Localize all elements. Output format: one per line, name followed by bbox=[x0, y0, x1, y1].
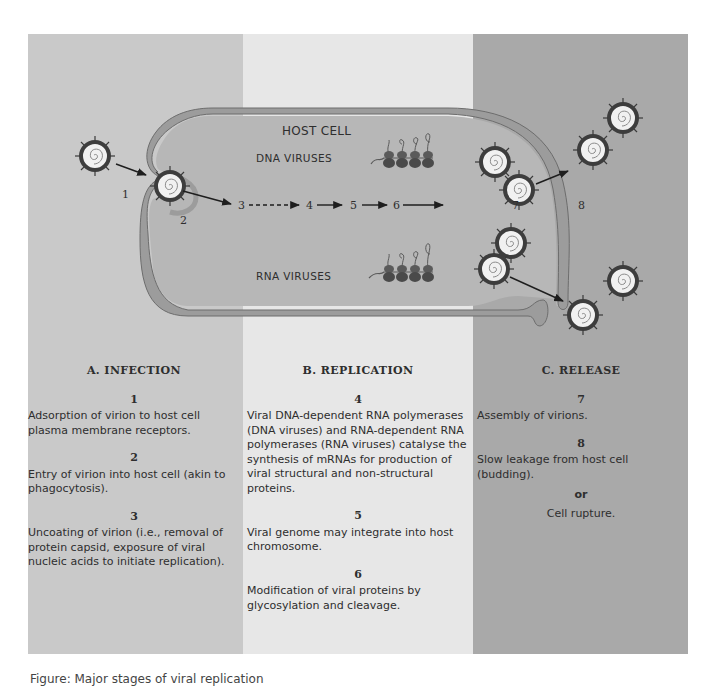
step-number: 2 bbox=[28, 451, 240, 466]
virion-assembled-2 bbox=[499, 170, 539, 210]
virion-entering bbox=[150, 166, 190, 206]
section-title: C. RELEASE bbox=[477, 364, 685, 379]
step-marker-2: 2 bbox=[180, 214, 187, 227]
step-description: Viral DNA-dependent RNA polymerases (DNA… bbox=[247, 409, 469, 496]
step-description: Assembly of virions. bbox=[477, 409, 685, 424]
step-description: Modification of viral proteins by glycos… bbox=[247, 584, 469, 613]
step-marker-4: 4 bbox=[306, 199, 313, 212]
step-number: 6 bbox=[247, 568, 469, 583]
dna-viruses-label: DNA VIRUSES bbox=[256, 152, 332, 164]
step-number: 4 bbox=[247, 393, 469, 408]
release-section: C. RELEASE 7 Assembly of virions. 8 Slow… bbox=[477, 364, 685, 534]
step-marker-8: 8 bbox=[578, 199, 585, 212]
figure-panel: 1 2 3 4 5 6 7 8 DNA VIRUSES RNA VIRUSES … bbox=[28, 34, 688, 654]
virion-released-2 bbox=[573, 130, 613, 170]
viral-replication-diagram: 1 2 3 4 5 6 7 8 DNA VIRUSES RNA VIRUSES bbox=[28, 34, 688, 344]
virion-rna-released-1 bbox=[603, 261, 643, 301]
step-number: 7 bbox=[477, 393, 685, 408]
or-label: or bbox=[477, 488, 685, 503]
virion-adsorbing bbox=[75, 136, 115, 176]
host-cell bbox=[140, 108, 569, 326]
step-number: 5 bbox=[247, 509, 469, 524]
figure-caption: Figure: Major stages of viral replicatio… bbox=[30, 672, 264, 686]
section-title: B. REPLICATION bbox=[247, 364, 469, 379]
virion-assembled-1 bbox=[475, 142, 515, 182]
step-description: Slow leakage from host cell (budding). bbox=[477, 453, 685, 482]
step-description: Adsorption of virion to host cell plasma… bbox=[28, 409, 240, 438]
replication-section: B. REPLICATION 4 Viral DNA-dependent RNA… bbox=[247, 364, 469, 626]
virion-rna-released-2 bbox=[563, 295, 603, 335]
step-number: 1 bbox=[28, 393, 240, 408]
step-marker-5: 5 bbox=[350, 199, 357, 212]
virion-released-1 bbox=[603, 98, 643, 138]
step-marker-1: 1 bbox=[122, 188, 129, 201]
step-number: 3 bbox=[28, 510, 240, 525]
host-cell-title: HOST CELL bbox=[282, 124, 351, 138]
step-marker-7: 7 bbox=[512, 199, 519, 212]
rna-viruses-label: RNA VIRUSES bbox=[256, 270, 331, 282]
step-description: Entry of virion into host cell (akin to … bbox=[28, 468, 240, 497]
step-marker-3: 3 bbox=[238, 199, 245, 212]
infection-section: A. INFECTION 1 Adsorption of virion to h… bbox=[28, 364, 240, 583]
alt-description: Cell rupture. bbox=[477, 507, 685, 522]
step-marker-6: 6 bbox=[393, 199, 400, 212]
section-title: A. INFECTION bbox=[28, 364, 240, 379]
step-number: 8 bbox=[477, 437, 685, 452]
step-description: Uncoating of virion (i.e., removal of pr… bbox=[28, 526, 240, 570]
virion-rna-2 bbox=[474, 249, 514, 289]
step-description: Viral genome may integrate into host chr… bbox=[247, 526, 469, 555]
